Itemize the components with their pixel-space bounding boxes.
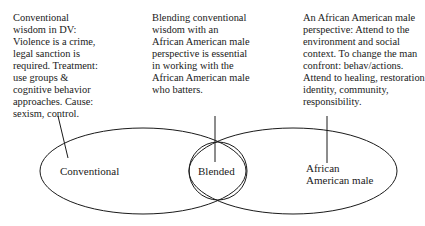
label-conventional: Conventional	[60, 165, 119, 177]
label-blended: Blended	[198, 165, 235, 177]
label-african-american-male: African American male	[306, 162, 374, 186]
venn-diagram	[0, 0, 425, 226]
leader-line-conventional	[58, 116, 68, 158]
